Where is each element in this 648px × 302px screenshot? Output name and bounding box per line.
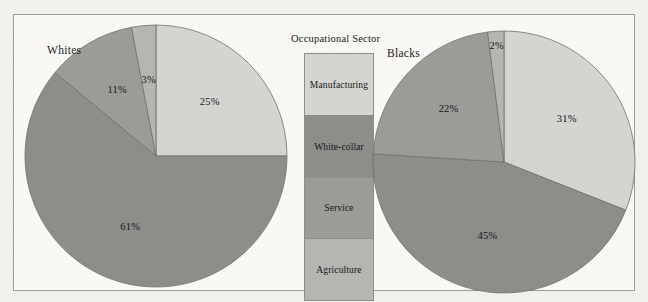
pie-whites-svg: 25%61%11%3%: [22, 22, 290, 290]
pie-chart-blacks: 31%45%22%2%: [370, 28, 638, 296]
pie-slice-label-white-collar: 45%: [477, 230, 497, 241]
legend-item-agriculture[interactable]: Agriculture: [305, 239, 373, 300]
legend-label-agriculture: Agriculture: [316, 264, 361, 275]
legend-label-manufacturing: Manufacturing: [310, 79, 368, 90]
pie-slice-label-white-collar: 61%: [120, 221, 140, 232]
pie-slice-label-manufacturing: 25%: [200, 96, 220, 107]
legend-occupational-sector: Manufacturing White-collar Service Agric…: [304, 53, 374, 301]
figure-frame: 25%61%11%3% Whites Occupational Sector M…: [13, 14, 635, 291]
pie-blacks-title: Blacks: [387, 47, 420, 59]
legend-item-manufacturing[interactable]: Manufacturing: [305, 54, 373, 116]
pie-slice-label-service: 11%: [108, 84, 128, 95]
pie-blacks-svg: 31%45%22%2%: [370, 28, 638, 296]
legend-item-service[interactable]: Service: [305, 178, 373, 240]
legend-title: Occupational Sector: [291, 33, 380, 44]
pie-slice-label-manufacturing: 31%: [557, 113, 577, 124]
pie-chart-whites: 25%61%11%3%: [22, 22, 290, 290]
legend-item-white-collar[interactable]: White-collar: [305, 116, 373, 178]
pie-slice-label-service: 22%: [439, 103, 459, 114]
pie-whites-title: Whites: [47, 44, 81, 56]
legend-label-service: Service: [324, 202, 353, 213]
pie-slice-label-agriculture: 2%: [490, 40, 504, 51]
pie-slice-label-agriculture: 3%: [142, 74, 156, 85]
legend-label-white-collar: White-collar: [314, 141, 364, 152]
pie-slice-manufacturing[interactable]: [156, 25, 287, 156]
